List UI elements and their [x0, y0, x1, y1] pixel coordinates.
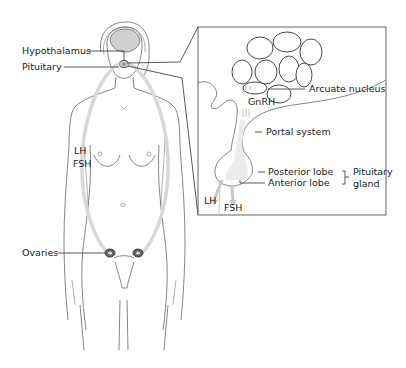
- label-fsh-body: FSH: [73, 158, 91, 169]
- label-pituitary-gland-2: gland: [353, 178, 380, 189]
- label-fsh-inset: FSH: [224, 202, 242, 213]
- label-hypothalamus: Hypothalamus: [22, 45, 91, 56]
- label-anterior-lobe: Anterior lobe: [268, 177, 330, 188]
- label-arcuate-nucleus: Arcuate nucleus: [309, 83, 386, 94]
- label-lh-inset: LH: [204, 195, 216, 206]
- label-posterior-lobe: Posterior lobe: [268, 166, 333, 177]
- label-ovaries: Ovaries: [22, 247, 58, 258]
- label-gnrh: GnRH: [248, 96, 275, 107]
- label-portal-system: Portal system: [266, 126, 331, 137]
- hpg-axis-diagram: Hypothalamus Pituitary LH FSH Ovaries: [0, 0, 406, 368]
- label-pituitary: Pituitary: [22, 61, 62, 72]
- ovaries-uterus: [105, 249, 143, 288]
- label-pituitary-gland-1: Pituitary: [353, 166, 393, 177]
- hormone-flow-arrows: [82, 64, 168, 255]
- label-lh-body: LH: [74, 145, 86, 156]
